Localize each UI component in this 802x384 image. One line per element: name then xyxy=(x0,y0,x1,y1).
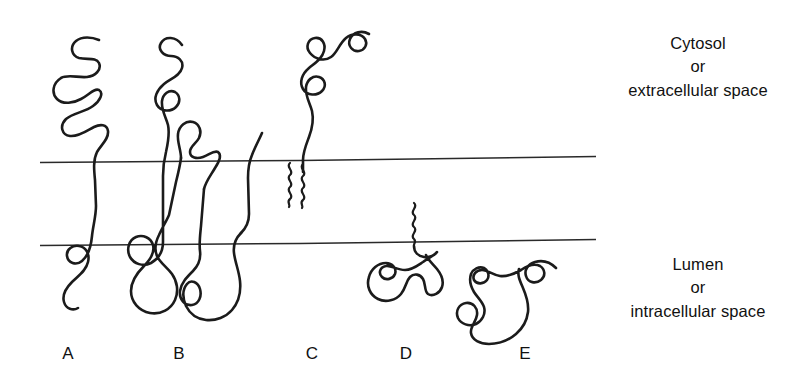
lumen-region-label: Lumen or intracellular space xyxy=(600,253,796,323)
protein-d-polypeptide-chain xyxy=(368,246,443,301)
protein-a-single-pass xyxy=(54,38,109,310)
protein-b-polypeptide-chain-segment-1 xyxy=(128,38,182,313)
membrane-topology-figure: Cytosol or extracellular space Lumen or … xyxy=(0,0,802,384)
cytosol-label-line-2: or xyxy=(600,55,796,78)
lumen-label-line-3: intracellular space xyxy=(600,300,796,323)
membrane-bilayer xyxy=(40,157,596,246)
protein-b-polypeptide-chain-segment-2 xyxy=(180,189,241,320)
protein-a-polypeptide-chain xyxy=(54,38,109,310)
cytosol-label-line-3: extracellular space xyxy=(600,79,796,102)
protein-b-cytosolic-loop xyxy=(178,122,220,189)
protein-d-lipid-anchored-luminal xyxy=(368,203,443,301)
panel-label-e: E xyxy=(512,344,538,364)
lumen-label-line-2: or xyxy=(600,276,796,299)
panel-label-d: D xyxy=(393,344,419,364)
protein-b-multi-pass xyxy=(128,38,262,320)
panel-label-b: B xyxy=(166,344,192,364)
protein-c-polypeptide-chain xyxy=(301,32,369,172)
cytosol-region-label: Cytosol or extracellular space xyxy=(600,32,796,102)
protein-e-polypeptide-chain xyxy=(457,261,556,344)
panel-label-a: A xyxy=(55,344,81,364)
protein-d-acyl-chain-1 xyxy=(413,203,416,246)
protein-c-lipid-anchored-cytosolic xyxy=(288,32,369,208)
protein-c-acyl-chain-1 xyxy=(288,163,291,207)
cytosol-label-line-1: Cytosol xyxy=(600,32,796,55)
protein-e-soluble-peripheral xyxy=(457,261,556,344)
lower-leaflet-line xyxy=(40,240,596,246)
upper-leaflet-line xyxy=(40,157,596,163)
protein-b-c-terminal-tail xyxy=(241,133,262,233)
lumen-label-line-1: Lumen xyxy=(600,253,796,276)
panel-label-c: C xyxy=(299,344,325,364)
